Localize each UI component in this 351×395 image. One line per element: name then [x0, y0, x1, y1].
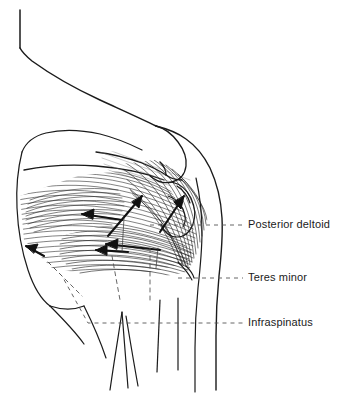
label-teres-minor: Teres minor — [248, 271, 307, 284]
neck-contour — [20, 10, 156, 126]
label-posterior-deltoid: Posterior deltoid — [248, 218, 330, 231]
torso-contour-lines — [50, 298, 178, 390]
anatomy-illustration — [0, 0, 351, 395]
scapular-spine — [24, 152, 166, 180]
label-infraspinatus: Infraspinatus — [248, 316, 313, 329]
anatomical-figure: Posterior deltoid Teres minor Infraspina… — [0, 0, 351, 395]
infraspinatus-fibers — [18, 170, 196, 274]
